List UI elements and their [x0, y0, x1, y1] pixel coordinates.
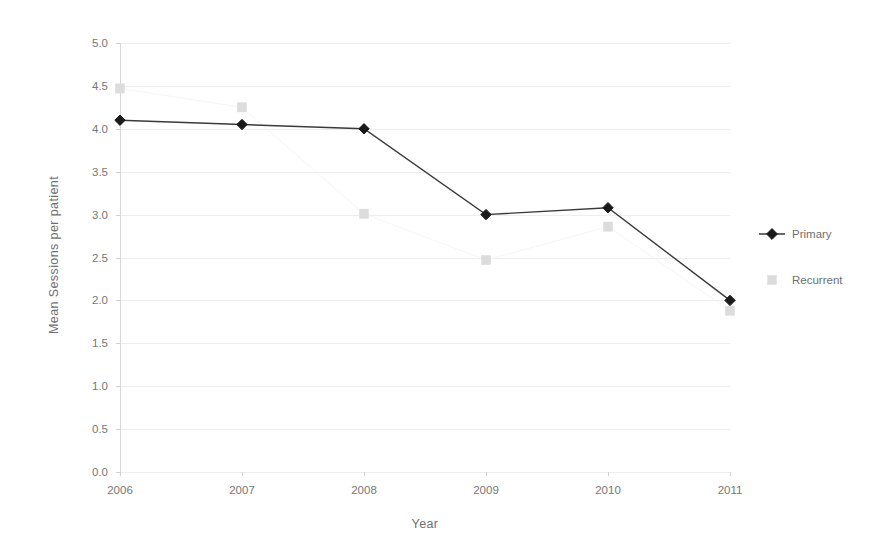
x-tick-label: 2009	[473, 484, 499, 496]
legend-marker-swatch	[768, 276, 777, 285]
y-tick-label: 1.0	[92, 380, 108, 392]
y-tick-label: 0.0	[92, 466, 108, 478]
legend-label: Recurrent	[792, 274, 843, 286]
data-point-marker	[115, 84, 124, 93]
chart-background	[0, 0, 883, 558]
line-chart: 0.00.51.01.52.02.53.03.54.04.55.0 200620…	[0, 0, 883, 558]
y-tick-label: 3.5	[92, 166, 108, 178]
x-axis-title: Year	[412, 517, 439, 531]
x-tick-label: 2006	[107, 484, 133, 496]
y-tick-label: 4.5	[92, 80, 108, 92]
y-tick-label: 2.0	[92, 294, 108, 306]
y-tick-label: 1.5	[92, 337, 108, 349]
y-axis-title: Mean Sessions per patient	[47, 176, 61, 334]
data-point-marker	[603, 222, 612, 231]
x-tick-label: 2010	[595, 484, 621, 496]
data-point-marker	[359, 209, 368, 218]
x-tick-label: 2007	[229, 484, 255, 496]
chart-canvas: 0.00.51.01.52.02.53.03.54.04.55.0 200620…	[0, 0, 883, 558]
data-point-marker	[725, 306, 734, 315]
x-tick-label: 2011	[718, 484, 743, 496]
y-tick-label: 0.5	[92, 423, 108, 435]
data-point-marker	[481, 255, 490, 264]
y-tick-label: 2.5	[92, 252, 108, 264]
y-tick-label: 5.0	[92, 37, 108, 49]
y-tick-label: 4.0	[92, 123, 108, 135]
data-point-marker	[237, 103, 246, 112]
x-tick-label: 2008	[351, 484, 377, 496]
y-tick-label: 3.0	[92, 209, 108, 221]
legend-label: Primary	[792, 228, 832, 240]
